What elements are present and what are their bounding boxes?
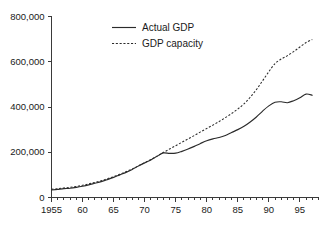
legend-item-gdp-capacity: GDP capacity [112,35,203,51]
y-tick-label: 400,000 [0,102,45,112]
data-series [52,40,313,190]
legend-swatch-solid-icon [112,23,136,32]
legend-label-gdp-capacity: GDP capacity [142,38,203,49]
y-tick-label: 800,000 [0,12,45,22]
series-line-actual-gdp [52,94,313,190]
y-tick-label: 200,000 [0,147,45,157]
legend-item-actual-gdp: Actual GDP [112,19,203,35]
chart-legend: Actual GDP GDP capacity [112,19,203,51]
series-line-gdp-capacity [52,40,313,190]
y-axis-ticks [48,17,52,198]
legend-swatch-dashed-icon [112,39,136,48]
y-tick-label: 0 [0,193,45,203]
y-tick-label: 600,000 [0,57,45,67]
legend-label-actual-gdp: Actual GDP [142,22,194,33]
gdp-chart: 0200,000400,000600,000800,000 1955606570… [0,0,325,227]
x-tick-label: 95 [280,205,320,215]
